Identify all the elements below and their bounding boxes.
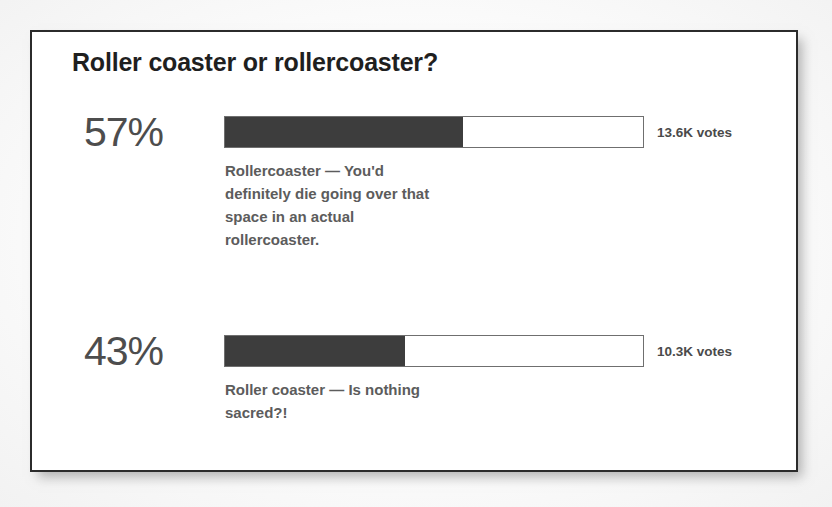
poll-option-percent: 43% — [84, 328, 214, 374]
page-title: Roller coaster or rollercoaster? — [72, 48, 438, 77]
poll-option-bar-track — [224, 116, 644, 148]
poll-option-votes: 13.6K votes — [657, 125, 732, 140]
poll-option-votes: 10.3K votes — [657, 344, 732, 359]
poll-option-description: Roller coaster — Is nothing sacred?! — [225, 378, 440, 424]
poll-option-bar-track — [224, 335, 644, 367]
poll-option-bar-fill — [225, 117, 463, 147]
poll-option-percent: 57% — [84, 109, 214, 155]
poll-option-bar-fill — [225, 336, 405, 366]
poll-result-card: Roller coaster or rollercoaster? 57% 13.… — [30, 30, 798, 472]
poll-option-description: Rollercoaster — You'd definitely die goi… — [225, 159, 440, 251]
